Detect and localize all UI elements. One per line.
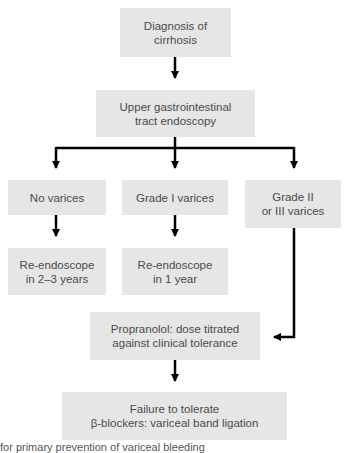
node-failure-band-ligation: Failure to tolerate β-blockers: variceal… [62, 392, 287, 440]
node-grade-1: Grade I varices [122, 180, 228, 215]
node-endoscopy: Upper gastrointestinal tract endoscopy [96, 90, 255, 137]
node-propranolol: Propranolol: dose titrated against clini… [90, 312, 260, 360]
node-grade-2-3: Grade II or III varices [245, 180, 341, 228]
node-no-varices: No varices [8, 180, 106, 215]
figure-caption: for primary prevention of variceal bleed… [0, 441, 205, 453]
node-reendoscope-2-3-years: Re-endoscope in 2–3 years [8, 248, 106, 295]
node-reendoscope-1-year: Re-endoscope in 1 year [122, 248, 228, 295]
node-diagnosis: Diagnosis of cirrhosis [120, 8, 231, 57]
